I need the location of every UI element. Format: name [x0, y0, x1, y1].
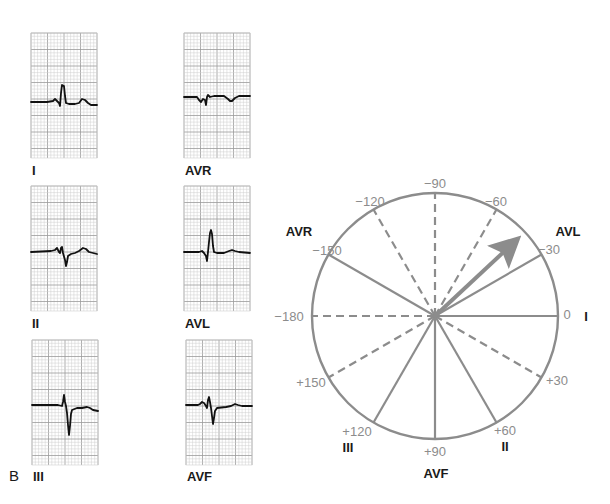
degree-label: +60 [494, 423, 516, 438]
hexaxial-lead-label-avr: AVR [286, 224, 313, 239]
ecg-grid [186, 340, 252, 465]
degree-label: −180 [274, 309, 303, 324]
ecg-hexaxial-figure: IAVRIIAVLIIIAVF −90−120−60−150−30−1800+1… [0, 0, 610, 504]
lead-label-avl: AVL [185, 316, 210, 331]
lead-label-avf: AVF [187, 469, 212, 484]
mean-axis-arrow-icon [435, 244, 513, 316]
axis-line-60 [435, 316, 497, 423]
degree-label: +120 [342, 424, 371, 439]
hexaxial-lead-label-ii: II [501, 439, 508, 454]
ecg-strips-panel: IAVRIIAVLIIIAVF [31, 33, 252, 484]
degree-label: −60 [485, 194, 507, 209]
hexaxial-lead-label-avf: AVF [423, 466, 448, 481]
hexaxial-lead-label-iii: III [343, 440, 354, 455]
axis-line-neg150 [328, 255, 435, 317]
ecg-strip-avr [184, 33, 250, 158]
degree-label: +90 [424, 444, 446, 459]
ecg-grid [31, 33, 97, 158]
hexaxial-lead-label-i: I [584, 309, 588, 324]
lead-label-iii: III [33, 469, 44, 484]
degree-label: 0 [563, 307, 570, 322]
degree-label: +150 [296, 375, 325, 390]
ecg-strip-avl [184, 186, 250, 311]
hexaxial-reference-diagram: −90−120−60−150−30−1800+150+30+120+60+90A… [274, 176, 587, 481]
axis-line-neg120 [374, 209, 436, 316]
lead-label-i: I [32, 163, 36, 178]
lead-label-avr: AVR [185, 163, 212, 178]
lead-label-ii: II [32, 316, 39, 331]
ecg-strip-iii [32, 340, 98, 465]
ecg-strip-avf [186, 340, 252, 465]
degree-label: −150 [312, 243, 341, 258]
ecg-strip-ii [31, 186, 97, 311]
ecg-grid [31, 186, 97, 311]
axis-line-120 [374, 316, 436, 423]
axis-line-neg60 [435, 209, 497, 316]
panel-label: B [9, 467, 19, 484]
hexaxial-lead-label-avl: AVL [555, 224, 580, 239]
degree-label: −90 [424, 176, 446, 191]
degree-label: +30 [546, 373, 568, 388]
degree-label: −30 [538, 242, 560, 257]
degree-label: −120 [355, 194, 384, 209]
ecg-grid [184, 186, 250, 311]
ecg-strip-i [31, 33, 97, 158]
axis-line-150 [328, 316, 435, 378]
axis-line-30 [435, 316, 542, 378]
